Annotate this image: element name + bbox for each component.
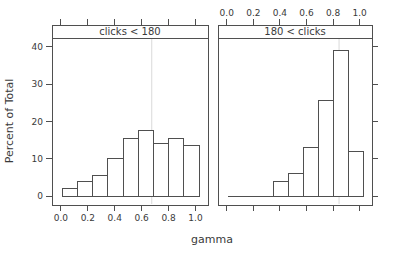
strip-label: clicks < 180 (99, 26, 160, 37)
x-tick-label: 0.0 (220, 8, 235, 18)
panels-group: clicks < 1800.00.20.40.60.81.00102030401… (32, 8, 378, 223)
histogram-bar (93, 176, 108, 197)
histogram-bar (169, 138, 184, 196)
panel-1: 180 < clicks0.00.20.40.60.81.0 (218, 8, 378, 211)
strip-label: 180 < clicks (264, 26, 325, 37)
y-axis-title: Percent of Total (3, 79, 16, 164)
x-tick-label: 0.2 (81, 213, 95, 223)
x-tick-label: 1.0 (352, 8, 367, 18)
histogram-bar (77, 181, 92, 196)
lattice-histogram-figure: Percent of Total gamma clicks < 1800.00.… (0, 0, 406, 258)
x-tick-label: 0.6 (299, 8, 314, 18)
histogram-bar (62, 189, 77, 196)
histogram-bar (153, 144, 168, 196)
y-tick-label: 30 (32, 79, 44, 89)
x-axis-title: gamma (191, 233, 233, 246)
panel-0: clicks < 1800.00.20.40.60.81.0010203040 (32, 19, 208, 223)
histogram-bar (123, 138, 138, 196)
histogram-bar (138, 131, 153, 196)
y-tick-label: 40 (32, 42, 44, 52)
x-tick-label: 0.8 (161, 213, 176, 223)
x-tick-label: 0.0 (54, 213, 69, 223)
y-tick-label: 10 (32, 154, 44, 164)
y-tick-label: 20 (32, 117, 44, 127)
histogram-bar (288, 174, 303, 196)
histogram-bar (318, 101, 333, 196)
histogram-bar (348, 151, 363, 196)
x-tick-label: 1.0 (188, 213, 203, 223)
x-tick-label: 0.6 (134, 213, 149, 223)
histogram-bar (108, 159, 123, 196)
x-tick-label: 0.8 (326, 8, 341, 18)
histogram-bar (333, 51, 348, 196)
x-tick-label: 0.4 (108, 213, 123, 223)
y-tick-label: 0 (37, 191, 43, 201)
figure: Percent of Total gamma clicks < 1800.00.… (0, 0, 406, 258)
histogram-bar (303, 148, 318, 196)
histogram-bar (184, 146, 199, 196)
x-tick-label: 0.2 (246, 8, 260, 18)
histogram-bar (273, 181, 288, 196)
x-tick-label: 0.4 (273, 8, 288, 18)
